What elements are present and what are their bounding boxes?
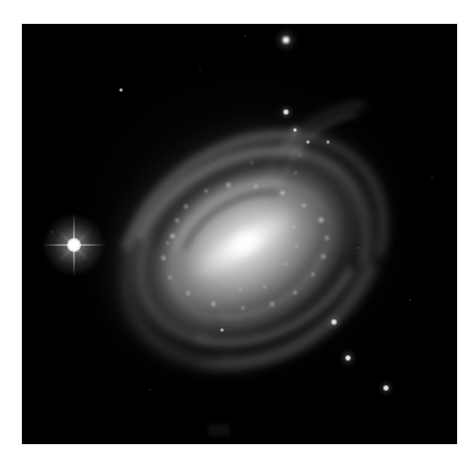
star-faint-right bbox=[406, 296, 413, 303]
star-top-right bbox=[274, 28, 298, 52]
star-point bbox=[345, 355, 351, 361]
hii-knot bbox=[165, 241, 169, 245]
star-point bbox=[383, 385, 389, 391]
foreground-star-with-diffraction-spikes bbox=[34, 205, 114, 285]
star-in-disk-low bbox=[217, 325, 228, 336]
star-point bbox=[306, 140, 310, 144]
star-arm-edge bbox=[288, 123, 302, 137]
star-point bbox=[282, 36, 290, 44]
star-point bbox=[199, 69, 201, 71]
hii-knot bbox=[298, 154, 302, 158]
star-upper-mid bbox=[278, 104, 295, 121]
hii-knot bbox=[168, 275, 173, 280]
star-point bbox=[326, 140, 329, 143]
star-point bbox=[220, 328, 224, 332]
star-point bbox=[149, 389, 151, 391]
star-faint-left bbox=[49, 229, 56, 236]
hii-knot bbox=[324, 235, 329, 240]
star-point bbox=[283, 109, 289, 115]
star-point bbox=[331, 319, 336, 324]
star-lower-right-a bbox=[326, 314, 342, 330]
star-upper-left-faint bbox=[114, 83, 127, 96]
star-in-arm-b bbox=[323, 137, 333, 147]
star-point bbox=[357, 247, 359, 249]
sky-image bbox=[22, 24, 457, 444]
hii-knot bbox=[205, 268, 209, 272]
page-root bbox=[0, 0, 473, 463]
star-point bbox=[409, 299, 411, 301]
star-point bbox=[119, 88, 123, 92]
hii-knot bbox=[250, 161, 254, 165]
star-core bbox=[67, 238, 81, 252]
hii-knot bbox=[320, 254, 326, 260]
star-faint-mid-right bbox=[355, 245, 362, 252]
hii-knot bbox=[262, 285, 266, 289]
star-point bbox=[431, 177, 433, 179]
star-faint-upper-right bbox=[429, 175, 436, 182]
star-point bbox=[51, 231, 53, 233]
star-faint-upper-mid bbox=[197, 67, 203, 73]
hii-knot bbox=[186, 290, 191, 295]
hii-knot bbox=[183, 204, 188, 209]
star-faint-lower-left bbox=[147, 387, 153, 393]
star-faint-top bbox=[242, 33, 248, 39]
hii-knot bbox=[253, 184, 258, 189]
hii-knot bbox=[269, 301, 275, 307]
hii-knot bbox=[310, 272, 315, 277]
star-lower-right-b bbox=[339, 349, 357, 367]
hii-knot bbox=[226, 182, 232, 188]
star-lower-right-c bbox=[378, 380, 395, 397]
hii-knot bbox=[211, 301, 217, 307]
star-point bbox=[244, 35, 246, 37]
bottom-edge-faint-marking bbox=[208, 424, 230, 436]
hii-knot bbox=[161, 255, 167, 261]
star-in-arm-a bbox=[303, 137, 314, 148]
hii-knot bbox=[239, 287, 243, 291]
